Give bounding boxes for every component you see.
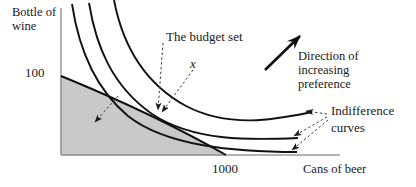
x-axis-label: Cans of beer [303, 163, 366, 177]
increasing-preference-arrow [265, 36, 300, 70]
indifference-label-line1: Indifference [331, 104, 394, 118]
figure-canvas: Bottle of wine 100 1000 Cans of beer The… [0, 0, 416, 187]
y-axis-tick-label: 100 [25, 66, 45, 80]
indifference-pointer-mid [294, 117, 327, 136]
budget-set-label: The budget set [166, 30, 243, 44]
budget-set-pointer [158, 43, 163, 110]
x-axis-tick-label: 1000 [212, 162, 238, 176]
y-axis-label-line1: Bottle of wine [12, 6, 56, 33]
tangency-pointer [162, 70, 193, 112]
budget-set-region [61, 76, 226, 155]
indifference-pointer-bottom [292, 120, 328, 150]
direction-label-line1: Direction of [298, 50, 359, 64]
indifference-curve-3 [114, 0, 312, 120]
direction-label-line2: increasing [298, 64, 349, 78]
direction-label-line3: preference [298, 78, 351, 92]
tangency-point-label: x [190, 57, 196, 71]
indifference-label-line2: curves [331, 121, 365, 135]
